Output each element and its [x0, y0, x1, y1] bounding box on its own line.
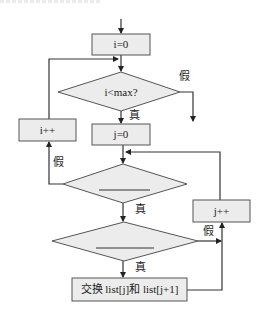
node-cond-j: [63, 164, 187, 203]
edge-label-cond-i-true: 真: [129, 110, 140, 121]
label-cond-i: i<max?: [78, 82, 164, 102]
edge-label-cond-j-false: 假: [53, 157, 64, 168]
node-cond-cmp: [52, 222, 198, 261]
edge-label-cond-cmp-false: 假: [203, 226, 214, 237]
edge-label-cond-cmp-true: 真: [135, 262, 146, 273]
edge-label-cond-i-false: 假: [179, 71, 190, 82]
label-swap: 交换 list[j]和 list[j+1]: [72, 278, 187, 301]
label-inc-j: j++: [193, 200, 250, 222]
label-init-i: i=0: [92, 34, 150, 55]
edge-label-cond-j-true: 真: [135, 204, 146, 215]
label-inc-i: i++: [19, 119, 76, 141]
arrow-cond-i-false: [180, 92, 193, 121]
label-init-j: j=0: [92, 124, 150, 145]
